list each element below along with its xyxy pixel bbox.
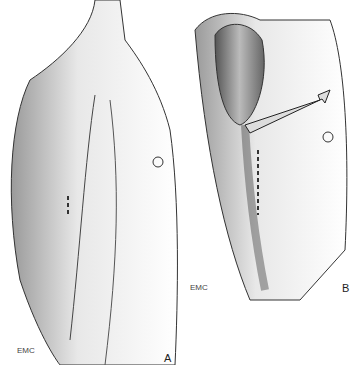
illustration-drawing — [0, 0, 359, 365]
panel-a-signature: EMC — [17, 346, 35, 355]
medical-illustration: EMC A EMC B — [0, 0, 359, 365]
panel-b-label: B — [342, 282, 349, 294]
panel-a-label: A — [164, 352, 171, 364]
panel-b-signature: EMC — [190, 283, 208, 292]
